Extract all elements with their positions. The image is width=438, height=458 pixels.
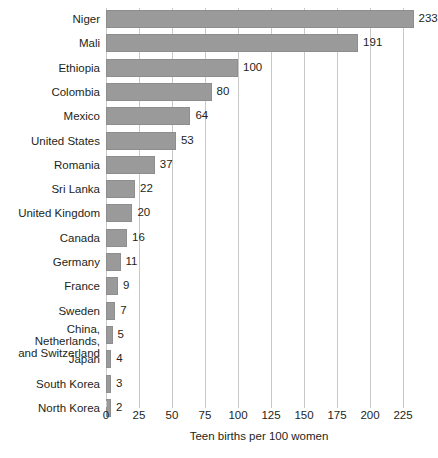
table-row: 9 — [106, 277, 412, 295]
table-row: 37 — [106, 156, 412, 174]
bar-value-label: 37 — [160, 159, 173, 171]
bar-3 — [106, 59, 238, 77]
tick-mark-icon — [337, 401, 338, 407]
plot-area: 2331911008064533722201611975432 — [106, 8, 412, 408]
tick-mark-icon — [238, 401, 239, 407]
category-label-7: Romania — [0, 159, 100, 171]
bar-rows: 2331911008064533722201611975432 — [106, 8, 412, 408]
bar-value-label: 233 — [419, 13, 438, 25]
table-row: 22 — [106, 180, 412, 198]
category-label-12: France — [0, 280, 100, 292]
bar-value-label: 7 — [120, 305, 126, 317]
tick-mark-icon — [304, 401, 305, 407]
x-tick-label: 50 — [166, 410, 179, 422]
bar-value-label: 11 — [126, 256, 138, 268]
bar-value-label: 53 — [181, 135, 194, 147]
bar-value-label: 22 — [140, 183, 153, 195]
x-tick-label: 150 — [294, 410, 313, 422]
table-row: 16 — [106, 229, 412, 247]
table-row: 11 — [106, 253, 412, 271]
bar-8 — [106, 180, 135, 198]
table-row: 233 — [106, 10, 412, 28]
bar-7 — [106, 156, 155, 174]
tick-mark-icon — [370, 401, 371, 407]
table-row: 7 — [106, 302, 412, 320]
x-tick-label: 75 — [199, 410, 212, 422]
bar-value-label: 3 — [116, 378, 122, 390]
bar-16 — [106, 375, 111, 393]
tick-mark-icon — [403, 401, 404, 407]
bar-value-label: 191 — [363, 38, 382, 50]
category-label-15: Japan — [0, 353, 100, 365]
category-label-16: South Korea — [0, 378, 100, 390]
bar-10 — [106, 229, 127, 247]
x-tick-label: 125 — [261, 410, 280, 422]
category-label-3: Ethiopia — [0, 62, 100, 74]
table-row: 100 — [106, 59, 412, 77]
teen-births-bar-chart: NigerMaliEthiopiaColombiaMexicoUnited St… — [0, 0, 438, 458]
category-label-17: North Korea — [0, 402, 100, 414]
bar-value-label: 5 — [118, 329, 124, 341]
x-tick-label: 0 — [103, 410, 109, 422]
bar-11 — [106, 253, 121, 271]
category-label-11: Germany — [0, 256, 100, 268]
bar-4 — [106, 83, 212, 101]
tick-mark-icon — [139, 401, 140, 407]
table-row: 4 — [106, 350, 412, 368]
bar-9 — [106, 204, 132, 222]
bar-5 — [106, 107, 190, 125]
table-row: 53 — [106, 132, 412, 150]
tick-mark-icon — [271, 401, 272, 407]
bar-14 — [106, 326, 113, 344]
bar-value-label: 20 — [137, 208, 150, 220]
bar-12 — [106, 277, 118, 295]
table-row: 5 — [106, 326, 412, 344]
category-label-5: Mexico — [0, 110, 100, 122]
bar-2 — [106, 34, 358, 52]
bar-1 — [106, 10, 414, 28]
x-tick-label: 200 — [360, 410, 379, 422]
tick-mark-icon — [172, 401, 173, 407]
bar-value-label: 100 — [243, 62, 262, 74]
category-label-1: Niger — [0, 13, 100, 25]
x-axis: 0255075100125150175200225 — [106, 408, 412, 428]
bar-6 — [106, 132, 176, 150]
category-label-13: Sweden — [0, 305, 100, 317]
category-label-8: Sri Lanka — [0, 183, 100, 195]
category-label-9: United Kingdom — [0, 207, 100, 219]
table-row: 191 — [106, 34, 412, 52]
bar-value-label: 64 — [195, 110, 208, 122]
table-row: 3 — [106, 375, 412, 393]
x-tick-label: 25 — [133, 410, 146, 422]
table-row: 20 — [106, 204, 412, 222]
x-tick-label: 100 — [228, 410, 247, 422]
tick-mark-icon — [205, 401, 206, 407]
table-row: 80 — [106, 83, 412, 101]
bar-value-label: 4 — [116, 353, 122, 365]
bar-15 — [106, 350, 111, 368]
category-axis-labels: NigerMaliEthiopiaColombiaMexicoUnited St… — [0, 8, 100, 408]
x-axis-title: Teen births per 100 women — [106, 430, 412, 442]
x-tick-label: 175 — [327, 410, 346, 422]
bar-value-label: 16 — [132, 232, 145, 244]
table-row: 64 — [106, 107, 412, 125]
x-tick-label: 225 — [393, 410, 412, 422]
bar-value-label: 80 — [217, 86, 230, 98]
category-label-2: Mali — [0, 37, 100, 49]
bar-13 — [106, 302, 115, 320]
category-label-6: United States — [0, 135, 100, 147]
category-label-4: Colombia — [0, 86, 100, 98]
tick-mark-icon — [106, 401, 107, 407]
bar-value-label: 9 — [123, 281, 129, 293]
category-label-10: Canada — [0, 232, 100, 244]
